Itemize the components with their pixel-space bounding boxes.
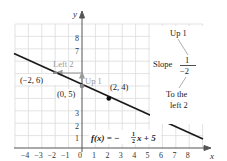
y-tick-labels: 1 2 3 7 8 — [75, 34, 79, 143]
svg-text:2: 2 — [132, 138, 135, 144]
up-1-inner-label: Up 1 — [85, 76, 102, 86]
svg-text:7: 7 — [75, 47, 79, 56]
svg-text:1: 1 — [75, 134, 79, 143]
point-label-0-5: (0, 5) — [57, 89, 76, 99]
y-axis-label: y — [72, 9, 77, 19]
svg-text:−1: −1 — [61, 151, 70, 160]
svg-text:x + 5: x + 5 — [136, 133, 156, 143]
svg-text:3: 3 — [119, 151, 123, 160]
svg-text:−2: −2 — [48, 151, 57, 160]
point-label-neg2-6: (−2, 6) — [20, 75, 43, 85]
svg-text:0: 0 — [78, 151, 82, 160]
svg-text:6: 6 — [159, 151, 163, 160]
left-2-label: Left 2 — [53, 59, 74, 69]
svg-text:4: 4 — [132, 151, 136, 160]
slope-word: Slope — [153, 59, 173, 69]
svg-text:1: 1 — [92, 151, 96, 160]
point-label-2-4: (2, 4) — [110, 82, 129, 92]
function-graph: x y −4 −3 −2 −1 0 1 2 3 4 5 6 7 8 1 2 3 … — [0, 0, 227, 161]
svg-text:8: 8 — [186, 151, 190, 160]
svg-text:f(x) = −: f(x) = − — [91, 133, 120, 143]
left-2-outer-label: left 2 — [170, 100, 188, 110]
x-tick-labels: −4 −3 −2 −1 0 1 2 3 4 5 6 7 8 — [21, 151, 190, 160]
up-1-outer-label: Up 1 — [170, 28, 187, 38]
point-0-5 — [80, 84, 85, 89]
to-the-label: To the — [166, 89, 188, 99]
svg-text:7: 7 — [172, 151, 176, 160]
svg-text:5: 5 — [146, 151, 150, 160]
slope-denominator: −2 — [180, 66, 189, 76]
x-axis-label: x — [209, 151, 214, 161]
svg-text:3: 3 — [75, 109, 79, 118]
svg-text:−3: −3 — [34, 151, 43, 160]
point-2-4 — [107, 96, 112, 101]
svg-text:1: 1 — [132, 131, 135, 137]
svg-text:8: 8 — [75, 34, 79, 43]
slope-numerator: 1 — [185, 55, 189, 65]
svg-text:2: 2 — [105, 151, 109, 160]
svg-text:2: 2 — [75, 122, 79, 131]
svg-text:−4: −4 — [21, 151, 30, 160]
